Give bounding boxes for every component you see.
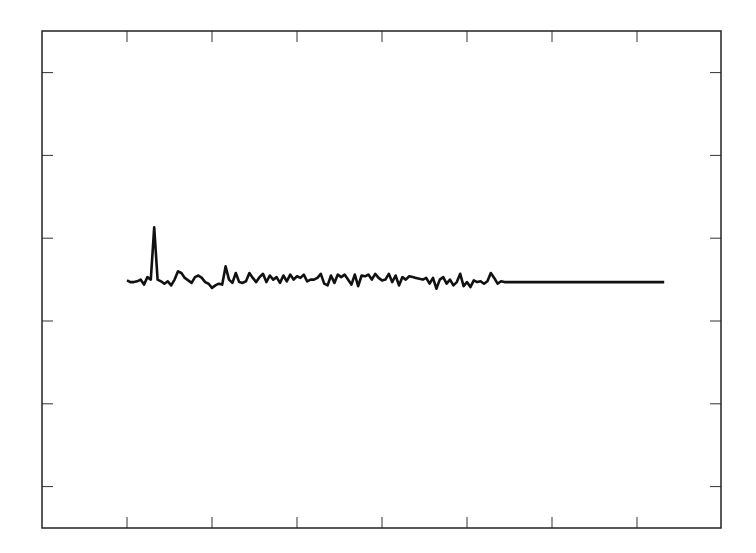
series-group [127, 227, 664, 288]
series-line [127, 227, 664, 288]
line-chart [0, 0, 756, 553]
